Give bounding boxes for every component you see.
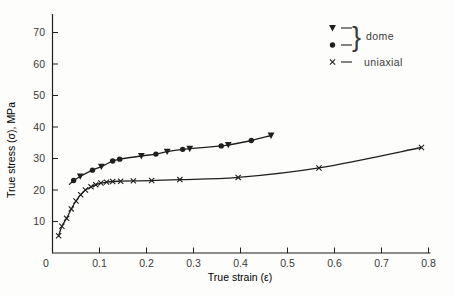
x-tick-label: 0.1 xyxy=(92,257,107,269)
circle-marker xyxy=(330,42,335,47)
y-tick-label: 70 xyxy=(33,26,45,38)
x-tick-label: 0.6 xyxy=(327,257,342,269)
origin-label: 0 xyxy=(43,257,49,269)
x-marker xyxy=(78,192,83,197)
circle-marker xyxy=(110,158,115,163)
series-dome-triangle xyxy=(77,133,275,180)
x-marker xyxy=(69,206,74,211)
x-marker xyxy=(83,187,88,192)
x-tick-label: 0.3 xyxy=(186,257,201,269)
y-axis-label: True stress (σ), MPa xyxy=(5,102,17,198)
x-tick-label: 0.4 xyxy=(233,257,248,269)
y-tick-label: 40 xyxy=(33,121,45,133)
legend-group-uniaxial: uniaxial xyxy=(330,56,403,68)
circle-marker xyxy=(219,143,224,148)
y-tick-label: 50 xyxy=(33,89,45,101)
axes: 102030405060700.10.20.30.40.50.60.70.80 xyxy=(33,14,436,269)
triangle-down-marker xyxy=(77,174,84,180)
x-marker xyxy=(73,198,78,203)
triangle-down-marker xyxy=(329,25,336,31)
circle-marker xyxy=(90,167,95,172)
x-marker xyxy=(59,224,64,229)
stress-strain-chart: 102030405060700.10.20.30.40.50.60.70.80 … xyxy=(0,0,455,297)
y-tick-label: 20 xyxy=(33,184,45,196)
data-curves xyxy=(59,136,422,236)
legend: }domeuniaxial xyxy=(329,22,403,68)
x-tick-label: 0.5 xyxy=(280,257,295,269)
circle-marker xyxy=(71,178,76,183)
y-tick-label: 30 xyxy=(33,152,45,164)
x-tick-label: 0.7 xyxy=(374,257,389,269)
circle-marker xyxy=(180,147,185,152)
x-tick-label: 0.8 xyxy=(421,257,436,269)
legend-label: uniaxial xyxy=(364,56,403,68)
legend-label: dome xyxy=(366,30,394,42)
y-tick-label: 60 xyxy=(33,58,45,70)
data-markers xyxy=(56,133,424,239)
legend-brace: } xyxy=(352,22,361,52)
x-marker xyxy=(330,59,335,64)
triangle-down-marker xyxy=(98,164,105,170)
legend-group-dome: }dome xyxy=(329,22,394,52)
x-axis-label: True strain (ε) xyxy=(208,271,272,283)
circle-marker xyxy=(153,151,158,156)
y-tick-label: 10 xyxy=(33,215,45,227)
x-tick-label: 0.2 xyxy=(139,257,154,269)
x-marker xyxy=(64,216,69,221)
axis-lines xyxy=(53,14,431,253)
circle-marker xyxy=(249,138,254,143)
circle-marker xyxy=(117,156,122,161)
stress-strain-figure: 102030405060700.10.20.30.40.50.60.70.80 … xyxy=(0,0,455,297)
